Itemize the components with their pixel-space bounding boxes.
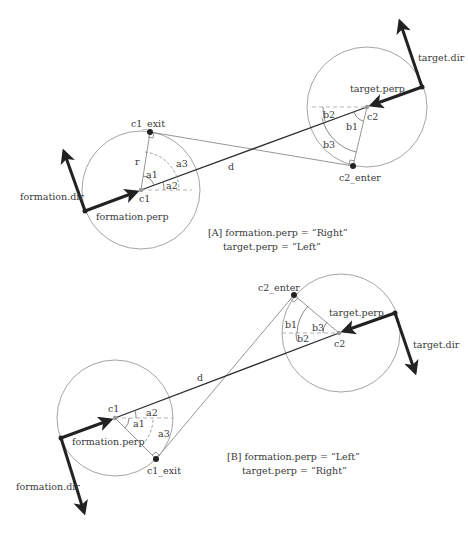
label-c2: c2: [367, 111, 378, 122]
right-angle-mark: [152, 452, 160, 456]
label-c1: c1: [108, 403, 119, 414]
path-planning-diagram: c1_exit r a1 a2 a3 c1 d formation.dir fo…: [0, 0, 468, 536]
formation-dir-arrow: [64, 152, 85, 211]
label-c1-exit: c1_exit: [147, 465, 181, 477]
c2-center: [337, 331, 341, 335]
label-formation-perp: formation.perp: [96, 211, 169, 222]
angle-b1-arc: [354, 112, 363, 121]
label-d: d: [197, 372, 203, 383]
label-c1-exit: c1_exit: [131, 118, 165, 130]
label-b3: b3: [312, 322, 324, 333]
label-target-dir: target.dir: [413, 339, 460, 350]
angle-a2-arc: [163, 182, 164, 190]
angle-a2-arc: [135, 411, 136, 418]
label-target-perp: target.perp: [350, 83, 405, 94]
c1-center: [113, 416, 117, 420]
caption-a-line2: target.perp = “Left”: [223, 241, 321, 252]
label-b2: b2: [297, 333, 309, 344]
formation-dir-arrow: [61, 438, 84, 512]
label-b1: b1: [346, 121, 358, 132]
target-point: [393, 311, 398, 316]
diagram-canvas: c1_exit r a1 a2 a3 c1 d formation.dir fo…: [0, 0, 468, 536]
c2-center: [365, 105, 369, 109]
label-d: d: [228, 161, 234, 172]
panel-a: c1_exit r a1 a2 a3 c1 d formation.dir fo…: [20, 22, 465, 252]
label-b3: b3: [323, 139, 335, 150]
formation-point: [83, 209, 88, 214]
label-a3: a3: [158, 428, 170, 439]
label-target-perp: target.perp: [329, 307, 384, 318]
radius-c2: [353, 107, 367, 166]
angle-b1-arc: [297, 306, 308, 333]
formation-perp-arrow: [85, 192, 136, 211]
label-a3: a3: [176, 158, 188, 169]
panel-b: c2_enter target.perp b1 b2 b3 c2 target.…: [16, 274, 460, 512]
angle-a1-arc: [125, 418, 129, 428]
target-point: [420, 85, 425, 90]
label-c1: c1: [139, 193, 150, 204]
c2-enter-point: [350, 163, 356, 169]
caption-a-line1: [A] formation.perp = “Right”: [208, 227, 348, 238]
label-a1: a1: [146, 169, 158, 180]
target-dir-arrow: [395, 313, 415, 372]
label-a1: a1: [133, 418, 145, 429]
label-target-dir: target.dir: [418, 52, 465, 63]
label-c2: c2: [334, 338, 345, 349]
label-a2: a2: [166, 180, 178, 191]
label-r: r: [135, 156, 140, 167]
c1-exit-point: [147, 129, 153, 135]
formation-point: [59, 436, 64, 441]
caption-b-line1: [B] formation.perp = “Left”: [227, 451, 360, 462]
label-formation-dir: formation.dir: [16, 481, 80, 492]
label-c2-enter: c2_enter: [258, 282, 300, 294]
c1-center: [139, 188, 143, 192]
label-b1: b1: [285, 319, 297, 330]
label-c2-enter: c2_enter: [339, 172, 381, 184]
radius-r: [141, 132, 150, 190]
label-formation-dir: formation.dir: [20, 191, 84, 202]
distance-d-line: [115, 333, 339, 418]
caption-b-line2: target.perp = “Right”: [242, 465, 347, 476]
label-a2: a2: [146, 407, 158, 418]
tangent-line: [156, 295, 294, 459]
label-formation-perp: formation.perp: [72, 436, 145, 447]
c1-exit-point: [153, 456, 159, 462]
label-b2: b2: [323, 109, 335, 120]
